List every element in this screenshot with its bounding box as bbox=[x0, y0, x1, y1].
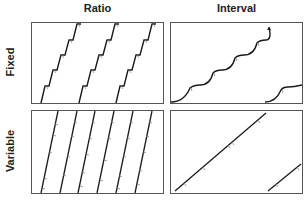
steady-lines bbox=[41, 111, 152, 193]
row-label-variable: Variable bbox=[4, 111, 16, 191]
panel-variable-ratio bbox=[31, 110, 164, 194]
arrowhead-icon bbox=[267, 27, 271, 30]
staircase-curves bbox=[41, 24, 156, 103]
column-label-interval: Interval bbox=[170, 2, 303, 14]
reinforcement-ticks bbox=[184, 120, 299, 187]
panel-fixed-ratio bbox=[31, 22, 164, 104]
row-label-fixed: Fixed bbox=[4, 22, 16, 102]
panel-fixed-interval bbox=[170, 22, 303, 104]
reinforcement-ticks bbox=[42, 122, 152, 189]
steady-lines bbox=[175, 113, 301, 191]
panel-variable-interval bbox=[170, 110, 303, 194]
reinforcement-ticks bbox=[46, 24, 155, 89]
column-label-ratio: Ratio bbox=[31, 2, 164, 14]
reinforcement-ticks bbox=[191, 43, 283, 93]
